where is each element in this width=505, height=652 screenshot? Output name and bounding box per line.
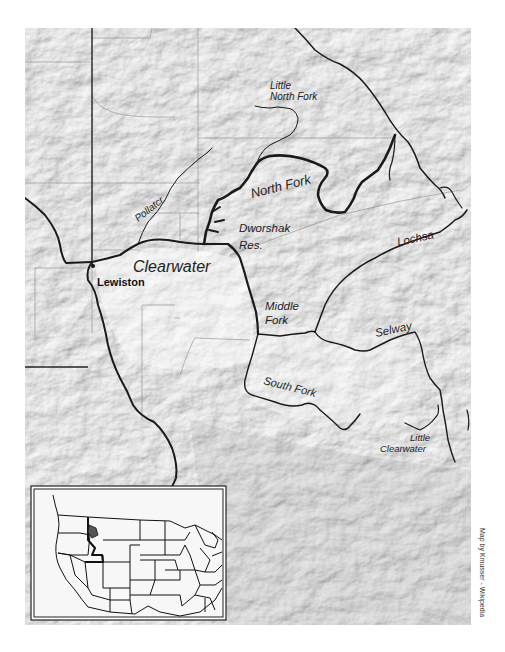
label-dworshak-2: Res. — [239, 239, 263, 251]
label-middle-fork-1: Middle — [265, 300, 299, 312]
lewiston-marker — [91, 264, 95, 268]
inset-inner-frame — [34, 489, 223, 617]
label-little-clearwater-1: Little — [410, 432, 430, 443]
label-lewiston: Lewiston — [97, 276, 145, 288]
map-svg: Little North Fork North Fork Pollatcr. D… — [0, 0, 505, 652]
label-little-north-fork-2: North Fork — [270, 91, 318, 102]
label-little-north-fork-1: Little — [270, 80, 292, 91]
label-clearwater: Clearwater — [133, 258, 211, 275]
inset-locator-map — [31, 486, 226, 620]
map-credit: Map by Kmusser - Wikipedia — [478, 528, 486, 617]
label-little-clearwater-2: Clearwater — [380, 443, 427, 454]
label-middle-fork-2: Fork — [265, 314, 289, 326]
map-container: Little North Fork North Fork Pollatcr. D… — [0, 0, 505, 652]
label-dworshak-1: Dworshak — [239, 222, 291, 234]
